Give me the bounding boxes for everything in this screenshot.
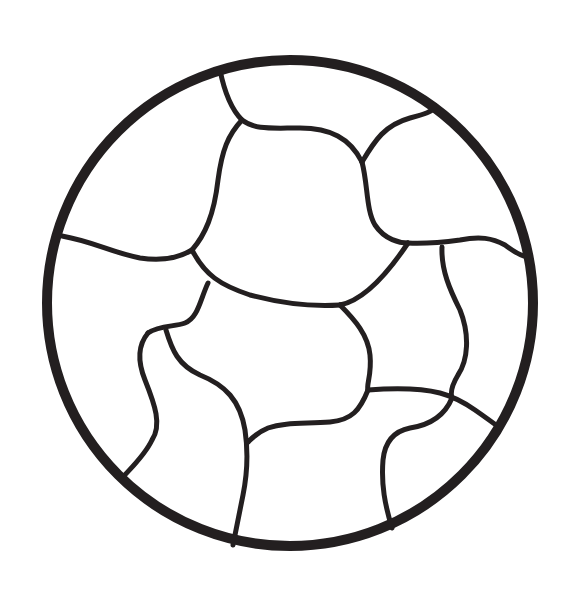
seam-top-right [362,106,436,162]
seam-right [408,238,524,256]
seam-left-lower [122,333,157,478]
ball-drawing: ball outline with curved panel seams (co… [0,0,578,595]
panel-seams [62,70,524,545]
seam-left-inner [166,330,247,545]
seam-right-vertical [442,247,467,398]
seam-top-left [220,70,242,120]
seam-mid-right [340,305,370,390]
seam-left-center [148,283,208,333]
seam-center-right [362,162,408,243]
seam-center-bottom [192,250,340,306]
seam-center-left [192,120,242,250]
seam-lower-center [248,390,368,442]
seam-top [242,120,362,162]
seam-right-upper [340,243,408,305]
ball-outline-icon [0,0,578,595]
seam-left [62,236,192,259]
